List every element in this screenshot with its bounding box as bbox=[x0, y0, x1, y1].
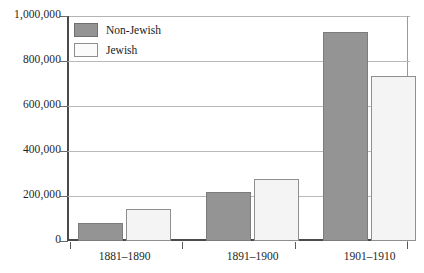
y-axis-label: 800,000 bbox=[23, 53, 61, 65]
y-axis-tick bbox=[60, 151, 68, 152]
x-axis-label: 1891–1900 bbox=[193, 250, 313, 262]
x-axis-tick bbox=[182, 242, 183, 249]
legend-item-non-jewish: Non-Jewish bbox=[74, 21, 161, 38]
bar-non-jewish-0 bbox=[78, 223, 123, 241]
y-axis-tick bbox=[60, 196, 68, 197]
y-axis-tick bbox=[60, 241, 68, 242]
bar-chart: 0200,000400,000600,000800,0001,000,000 1… bbox=[0, 0, 424, 273]
light-swatch-icon bbox=[74, 43, 98, 57]
legend-label-jewish: Jewish bbox=[106, 44, 137, 56]
x-axis-tick bbox=[70, 242, 71, 249]
x-axis-tick bbox=[407, 242, 408, 249]
x-axis-label: 1901–1910 bbox=[310, 250, 424, 262]
bar-non-jewish-1 bbox=[206, 192, 251, 242]
y-axis-tick bbox=[60, 16, 68, 17]
y-axis-label: 600,000 bbox=[23, 98, 61, 110]
x-axis-tick bbox=[295, 242, 296, 249]
dark-swatch-icon bbox=[74, 23, 98, 37]
bar-non-jewish-2 bbox=[323, 32, 368, 241]
y-axis-label: 400,000 bbox=[23, 143, 61, 155]
legend-label-non-jewish: Non-Jewish bbox=[106, 24, 161, 36]
y-axis-tick bbox=[60, 106, 68, 107]
legend: Non-Jewish Jewish bbox=[74, 21, 161, 58]
legend-item-jewish: Jewish bbox=[74, 41, 161, 58]
x-axis-label: 1881–1890 bbox=[65, 250, 185, 262]
bar-jewish-1 bbox=[254, 179, 299, 241]
bar-jewish-0 bbox=[126, 209, 171, 241]
y-axis-tick bbox=[60, 61, 68, 62]
bar-jewish-2 bbox=[371, 76, 416, 241]
y-axis-label: 1,000,000 bbox=[14, 8, 61, 20]
y-axis-label: 200,000 bbox=[23, 188, 61, 200]
y-axis-label: 0 bbox=[55, 233, 61, 245]
